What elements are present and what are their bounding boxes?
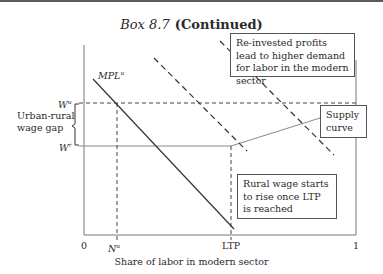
x-tick-ltp: LTP [222,240,240,252]
annotation-rural-wage: Rural wage starts to rise once LTP is re… [237,174,337,219]
annotation-reinvested-profits: Re-invested profits lead to higher deman… [230,33,355,77]
x-axis-title: Share of labor in modern sector [0,256,383,268]
annotation-supply-curve: Supply curve [320,105,367,138]
x-tick-1: 1 [353,240,359,252]
x-tick-0: 0 [81,240,87,252]
wr-label: Wr [59,139,72,154]
supply-rising [231,118,320,146]
x-tick-nu: Nu [108,240,120,255]
wu-label: Wu [58,96,72,111]
mpl-label: MPLu [98,67,124,82]
wage-gap-label: Urban-rural wage gap [17,110,75,134]
mpl-curve [93,79,234,229]
